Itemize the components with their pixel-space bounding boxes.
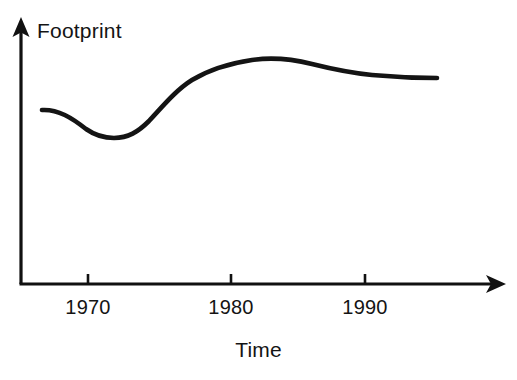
x-tick-label-1970: 1970 [43, 296, 133, 319]
x-axis-label: Time [0, 338, 517, 362]
y-axis-label: Footprint [37, 19, 122, 43]
x-tick-label-1990: 1990 [320, 296, 410, 319]
chart-figure: Footprint Time 1970 1980 1990 [0, 0, 517, 380]
chart-plot-area [0, 0, 517, 380]
footprint-curve [42, 59, 437, 138]
x-tick-label-1980: 1980 [186, 296, 276, 319]
